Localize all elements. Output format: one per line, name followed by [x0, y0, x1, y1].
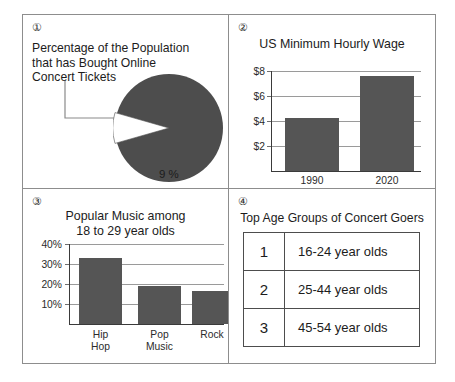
xtick-hip-hop-line1: Hip — [93, 329, 108, 340]
rank-cell: 1 — [244, 233, 285, 271]
music-chart-title: Popular Music among 18 to 29 year olds — [23, 209, 228, 239]
bar-2020 — [360, 76, 414, 171]
wage-plot-area: $8 $6 $4 $2 1990 2020 — [255, 71, 421, 181]
xtick-label-pop-music: Pop Music — [136, 329, 183, 353]
xtick-pop-music-line1: Pop — [150, 329, 168, 340]
bar-hip-hop — [79, 258, 122, 324]
table-row: 2 25-44 year olds — [244, 271, 420, 309]
y-axis — [69, 244, 70, 324]
age-group-cell: 16-24 year olds — [285, 233, 420, 271]
gridline-8 — [271, 71, 421, 72]
ytick-label-40: 40% — [35, 239, 62, 250]
ytick-label-20: 20% — [35, 279, 62, 290]
rank-cell: 2 — [244, 271, 285, 309]
rank-cell: 3 — [244, 309, 285, 347]
ytick-label-4: $4 — [241, 116, 265, 127]
x-axis — [271, 171, 421, 172]
age-table-title: Top Age Groups of Concert Goers — [229, 211, 435, 225]
music-bar-panel: ③ Popular Music among 18 to 29 year olds… — [23, 189, 229, 363]
gridline-40 — [69, 244, 224, 245]
xtick-label-1990: 1990 — [285, 175, 339, 187]
pie-chart: 9 % — [113, 72, 225, 184]
xtick-label-hip-hop: Hip Hop — [78, 329, 123, 353]
bar-pop-music — [138, 286, 181, 324]
music-chart-title-line2: 18 to 29 year olds — [76, 224, 175, 238]
wage-bar-panel: ② US Minimum Hourly Wage $8 $6 $4 $2 — [229, 15, 435, 189]
y-axis — [271, 71, 272, 171]
ytick-label-2: $2 — [241, 141, 265, 152]
bar-1990 — [285, 118, 339, 171]
panel-number-3: ③ — [32, 194, 42, 208]
age-group-cell: 45-54 year olds — [285, 309, 420, 347]
ytick-label-10: 10% — [35, 299, 62, 310]
ytick-label-8: $8 — [241, 66, 265, 77]
ytick-label-30: 30% — [35, 259, 62, 270]
ytick-label-6: $6 — [241, 91, 265, 102]
xtick-label-2020: 2020 — [360, 175, 414, 187]
music-chart-title-line1: Popular Music among — [66, 209, 186, 223]
x-axis — [69, 324, 224, 325]
infographic-grid: ① Percentage of the Population that has … — [22, 14, 436, 364]
wage-chart-title: US Minimum Hourly Wage — [229, 37, 435, 52]
pie-panel: ① Percentage of the Population that has … — [23, 15, 229, 189]
table-row: 1 16-24 year olds — [244, 233, 420, 271]
xtick-hip-hop-line2: Hop — [91, 341, 110, 352]
music-plot-area: 40% 30% 20% 10% Hip Hop Pop Music Rock — [37, 244, 222, 354]
panel-number-2: ② — [238, 20, 248, 34]
pie-slice-label: 9 % — [159, 168, 179, 180]
xtick-label-rock: Rock — [190, 329, 229, 341]
bar-rock — [192, 291, 229, 324]
xtick-pop-music-line2: Music — [146, 341, 173, 352]
table-row: 3 45-54 year olds — [244, 309, 420, 347]
age-table-panel: ④ Top Age Groups of Concert Goers 1 16-2… — [229, 189, 435, 363]
age-groups-table: 1 16-24 year olds 2 25-44 year olds 3 45… — [243, 232, 420, 347]
panel-number-4: ④ — [238, 194, 248, 208]
age-group-cell: 25-44 year olds — [285, 271, 420, 309]
xtick-rock-line1: Rock — [200, 329, 223, 340]
